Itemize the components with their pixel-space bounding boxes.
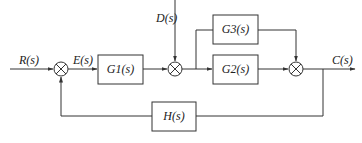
g3-input-wire bbox=[196, 30, 213, 69]
summing-junction-1 bbox=[54, 62, 68, 76]
g3-output-wire bbox=[258, 30, 296, 61]
output-label: C(s) bbox=[332, 53, 353, 67]
block-g2-label: G2(s) bbox=[222, 62, 249, 76]
block-diagram: R(s) E(s) G1(s) D(s) G3(s) G2(s) bbox=[0, 0, 362, 143]
block-h-label: H(s) bbox=[162, 109, 184, 123]
disturbance-label: D(s) bbox=[155, 11, 177, 25]
block-g1: G1(s) bbox=[98, 55, 143, 84]
summing-junction-2 bbox=[168, 62, 182, 76]
block-g3-label: G3(s) bbox=[222, 22, 249, 36]
input-label: R(s) bbox=[18, 53, 39, 67]
block-g3: G3(s) bbox=[213, 15, 258, 44]
block-h: H(s) bbox=[152, 102, 196, 131]
summing-junction-3 bbox=[289, 62, 303, 76]
error-label: E(s) bbox=[72, 53, 93, 67]
block-g2: G2(s) bbox=[213, 55, 258, 84]
block-g1-label: G1(s) bbox=[107, 62, 134, 76]
